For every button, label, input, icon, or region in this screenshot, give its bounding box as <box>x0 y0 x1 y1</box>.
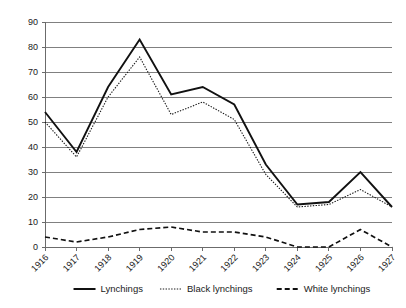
y-tick-label: 60 <box>28 92 38 102</box>
y-tick-label: 20 <box>28 192 38 202</box>
chart-canvas: 0102030405060708090 19161917191819191920… <box>0 0 406 308</box>
lynchings-line-chart: 0102030405060708090 19161917191819191920… <box>0 0 406 308</box>
y-tick-label: 0 <box>33 242 38 252</box>
y-tick-label: 80 <box>28 42 38 52</box>
legend-label-white-lynchings: White lynchings <box>304 283 371 294</box>
y-tick-label: 40 <box>28 142 38 152</box>
y-tick-label: 10 <box>28 217 38 227</box>
legend-label-black-lynchings: Black lynchings <box>187 283 253 294</box>
y-tick-label: 50 <box>28 117 38 127</box>
y-tick-label: 30 <box>28 167 38 177</box>
legend-label-lynchings: Lynchings <box>101 283 144 294</box>
y-tick-label: 90 <box>28 17 38 27</box>
y-tick-label: 70 <box>28 67 38 77</box>
chart-legend: LynchingsBlack lynchingsWhite lynchings <box>74 283 371 294</box>
